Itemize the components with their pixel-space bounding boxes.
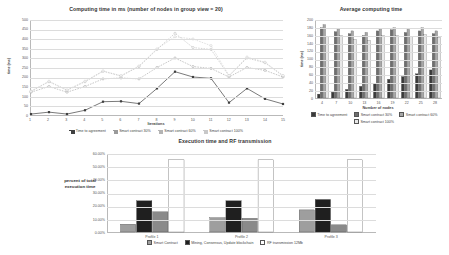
gridline xyxy=(315,60,442,61)
legend-line-marker xyxy=(69,130,74,133)
x-axis-tick: Profile 1 xyxy=(138,235,166,239)
legend-item[interactable]: Smart contract 30% xyxy=(113,129,151,133)
y-axis-tick: 150 xyxy=(4,85,28,89)
legend-item[interactable]: Smart contract 60% xyxy=(399,112,437,117)
y-axis-tick: 40.00% xyxy=(81,178,105,182)
x-axis-title-computing-time: Iterations xyxy=(30,122,282,126)
legend-item[interactable]: Time to agreement xyxy=(69,129,106,133)
gridline xyxy=(30,68,283,69)
gridline xyxy=(30,78,283,79)
chart-title-execution: Execution time and RF transmission xyxy=(55,138,395,144)
y-axis-tick: 400 xyxy=(4,37,28,41)
legend-item[interactable]: Time to agreement xyxy=(311,112,348,117)
chart-execution-time: Execution time and RF transmission perce… xyxy=(55,136,395,255)
gridline xyxy=(315,52,442,53)
chart-average-computing-time: Average computing time time (ms) Number … xyxy=(293,2,449,138)
chart-title-average: Average computing time xyxy=(293,6,449,12)
legend-item[interactable]: Smart contract 30% xyxy=(354,112,392,117)
legend-label: Mining, Consensus, Update blockchain xyxy=(191,241,253,245)
legend-label: RF transmission 12Mb xyxy=(267,241,303,245)
gridline xyxy=(315,20,442,21)
legend-execution: Smart ContractMining, Consensus, Update … xyxy=(75,240,375,245)
x-axis-tick: 28 xyxy=(421,101,449,105)
gridline xyxy=(107,194,376,195)
y-axis-tick: 30.00% xyxy=(81,191,105,195)
y-axis-tick: 10.00% xyxy=(81,218,105,222)
legend-label: Smart contract 30% xyxy=(361,113,393,117)
gridline xyxy=(315,44,442,45)
y-axis-tick: 140 xyxy=(289,42,313,46)
legend-swatch xyxy=(354,119,359,124)
y-axis-tick: 50 xyxy=(4,104,28,108)
legend-swatch xyxy=(260,240,265,245)
y-axis-tick: 300 xyxy=(4,56,28,60)
y-axis-tick: 60 xyxy=(289,73,313,77)
legend-label: Smart Contract xyxy=(154,241,178,245)
legend-label: Smart contract 60% xyxy=(406,113,438,117)
y-axis-tick: 0.00% xyxy=(81,231,105,235)
legend-average: Time to agreementSmart contract 30%Smart… xyxy=(301,112,447,124)
chart-title-computing-time: Computing time in ms (number of nodes in… xyxy=(0,6,292,12)
y-axis-tick: 50.00% xyxy=(81,165,105,169)
gridline xyxy=(30,20,283,21)
x-axis-title-average: Number of nodes xyxy=(315,106,441,110)
y-axis-tick: 180 xyxy=(289,26,313,30)
gridline xyxy=(315,75,442,76)
gridline xyxy=(30,97,283,98)
gridline xyxy=(107,167,376,168)
x-axis-tick: Profile 2 xyxy=(228,235,256,239)
gridline xyxy=(30,106,283,107)
gridline xyxy=(315,67,442,68)
legend-label: Smart contract 100% xyxy=(360,120,394,124)
legend-swatch xyxy=(147,240,152,245)
legend-item[interactable]: RF transmission 12Mb xyxy=(260,240,302,245)
y-axis-tick: 20.00% xyxy=(81,204,105,208)
legend-label: Time to agreement xyxy=(76,129,106,133)
legend-item[interactable]: Smart Contract xyxy=(147,240,178,245)
gridline xyxy=(107,207,376,208)
legend-line-marker xyxy=(113,130,118,133)
gridline xyxy=(315,83,442,84)
y-axis-tick: 500 xyxy=(4,18,28,22)
legend-line-marker xyxy=(203,130,208,133)
legend-item[interactable]: Smart contract 60% xyxy=(158,129,196,133)
y-axis-tick: 200 xyxy=(289,18,313,22)
gridline xyxy=(30,39,283,40)
y-axis-tick: 40 xyxy=(289,81,313,85)
y-axis-tick: 350 xyxy=(4,47,28,51)
legend-item[interactable]: Mining, Consensus, Update blockchain xyxy=(185,240,254,245)
gridline xyxy=(107,154,376,155)
y-axis-tick: 100 xyxy=(289,57,313,61)
gridline xyxy=(315,91,442,92)
legend-swatch xyxy=(354,112,359,117)
legend-swatch xyxy=(399,112,404,117)
y-axis-tick: 20 xyxy=(289,89,313,93)
legend-swatch xyxy=(185,240,190,245)
y-axis-tick: 250 xyxy=(4,66,28,70)
legend-label: Smart contract 100% xyxy=(209,129,243,133)
gridline xyxy=(30,58,283,59)
chart-computing-time: Computing time in ms (number of nodes in… xyxy=(0,2,292,138)
gridline xyxy=(315,28,442,29)
gridline xyxy=(107,180,376,181)
legend-line-marker xyxy=(158,130,163,133)
legend-swatch xyxy=(311,112,316,117)
gridline xyxy=(30,87,283,88)
legend-label: Smart contract 30% xyxy=(119,129,151,133)
gridline xyxy=(315,36,442,37)
y-axis-tick: 200 xyxy=(4,75,28,79)
legend-label: Time to agreement xyxy=(317,113,347,117)
y-axis-tick: 160 xyxy=(289,34,313,38)
y-axis-tick: 450 xyxy=(4,27,28,31)
y-axis-tick: 120 xyxy=(289,49,313,53)
y-axis-tick: 80 xyxy=(289,65,313,69)
legend-item[interactable]: Smart contract 100% xyxy=(203,129,243,133)
legend-computing-time: Time to agreementSmart contract 30%Smart… xyxy=(20,129,292,133)
y-axis-tick: 60.00% xyxy=(81,152,105,156)
gridline xyxy=(30,30,283,31)
y-axis-tick: 100 xyxy=(4,95,28,99)
x-axis-tick: Profile 3 xyxy=(317,235,345,239)
y-axis-title-line2: execution time xyxy=(55,184,105,190)
legend-label: Smart contract 60% xyxy=(164,129,196,133)
legend-item[interactable]: Smart contract 100% xyxy=(354,119,394,124)
